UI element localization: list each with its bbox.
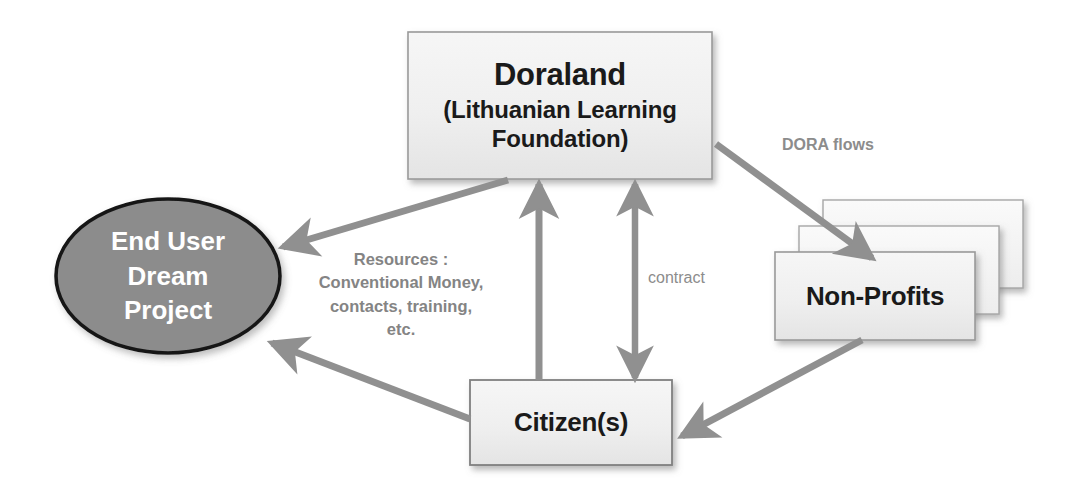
arrow-doraland-to-enduser [283,180,508,247]
diagram-canvas: Doraland (Lithuanian Learning Foundation… [0,0,1076,496]
non-profits-box-front[interactable] [775,252,975,340]
diagram-graphics [0,0,1076,496]
citizens-box[interactable] [470,380,672,465]
arrow-nonprofits-to-citizens [682,340,862,436]
doraland-box[interactable] [408,32,712,179]
end-user-ellipse[interactable] [56,199,280,353]
arrow-citizens-to-enduser [272,343,470,419]
non-profits-stack[interactable] [775,200,1023,340]
